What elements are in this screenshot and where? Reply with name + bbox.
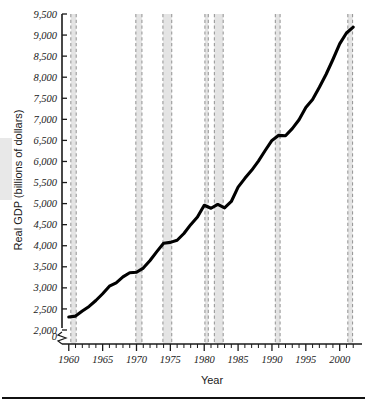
- y-axis-tick-label: 3,500: [32, 261, 57, 272]
- recession-band: [71, 14, 76, 344]
- gdp-chart-figure: 9,5009,0008,5008,0007,5007,0006,5006,000…: [0, 0, 367, 405]
- y-axis-tick-label: 8,500: [33, 51, 57, 62]
- y-axis-title: Real GDP (billions of dollars): [12, 109, 24, 250]
- x-axis-tick-label: 1980: [194, 354, 216, 365]
- y-axis-tick-label: 5,000: [33, 198, 57, 209]
- recession-bands-group: [71, 14, 353, 344]
- y-axis-tick-label: 6,500: [33, 135, 57, 146]
- y-axis-tick-label: 3,000: [32, 282, 57, 293]
- recession-band: [163, 14, 172, 344]
- x-axis-tick-label: 2000: [329, 354, 351, 365]
- x-axis-tick-label: 1985: [228, 354, 249, 365]
- y-axis-tick-label: 7,500: [33, 93, 57, 104]
- real-gdp-curve: [69, 27, 353, 317]
- x-axis-ticks: [69, 344, 353, 351]
- y-axis-tick-labels: 9,5009,0008,5008,0007,5007,0006,5006,000…: [32, 9, 57, 336]
- recession-band: [275, 14, 280, 344]
- page-bottom-rule: [2, 397, 365, 399]
- y-axis-tick-label: 2,500: [33, 304, 57, 315]
- x-axis-tick-label: 1965: [92, 354, 113, 365]
- y-axis-tick-label: 4,500: [33, 219, 57, 230]
- x-axis-tick-labels: 196019651970197519801985199019952000: [58, 354, 351, 365]
- y-axis-tick-label: 9,000: [33, 30, 57, 41]
- recession-band: [348, 14, 353, 344]
- y-axis-tick-label: 8,000: [33, 72, 57, 83]
- x-axis-tick-label: 1960: [58, 354, 80, 365]
- y-axis-tick-label: 5,500: [33, 177, 57, 188]
- y-axis-tick-label: 9,500: [33, 9, 57, 20]
- recession-band: [136, 14, 142, 344]
- recession-band: [214, 14, 223, 344]
- x-axis-tick-label: 1995: [295, 354, 316, 365]
- y-axis-tick-label: 7,000: [33, 114, 57, 125]
- x-axis-title: Year: [201, 374, 224, 386]
- y-axis-break-icon: [58, 332, 66, 344]
- y-axis-tick-label: 6,000: [33, 156, 57, 167]
- y-axis-tick-label: 4,000: [33, 240, 57, 251]
- x-axis-tick-label: 1975: [160, 354, 181, 365]
- real-gdp-line-chart: 9,5009,0008,5008,0007,5007,0006,5006,000…: [0, 0, 367, 405]
- y-axis-zero-label: 0: [52, 331, 58, 342]
- x-axis-tick-label: 1990: [261, 354, 283, 365]
- x-axis-tick-label: 1970: [126, 354, 148, 365]
